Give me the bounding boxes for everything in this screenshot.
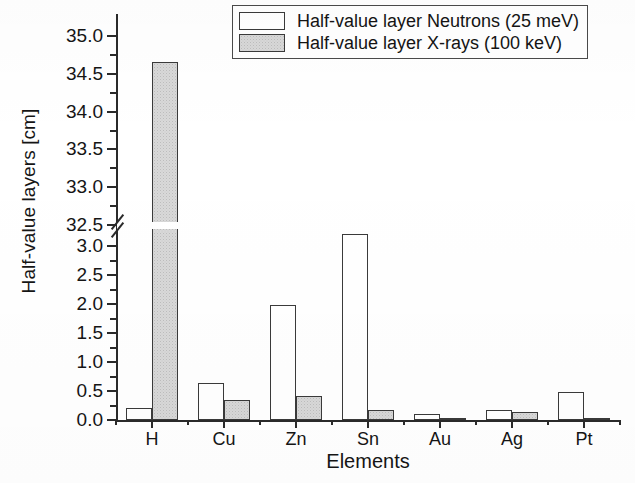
x-tick-minor: [547, 420, 549, 425]
y-tick-label: 34.0: [66, 102, 103, 121]
y-tick-label: 2.0: [77, 294, 103, 313]
x-tick-label: Zn: [285, 430, 306, 448]
y-tick-label: 32.5: [66, 215, 103, 234]
legend-entry-neutrons: Half-value layer Neutrons (25 meV): [239, 10, 579, 32]
x-tick-label: Cu: [212, 430, 235, 448]
bar: [414, 414, 440, 420]
bar: [198, 383, 224, 420]
y-tick: [110, 318, 116, 320]
plot-area: 0.00.51.01.52.02.53.032.533.033.534.034.…: [116, 14, 620, 422]
y-tick: [107, 361, 116, 363]
x-tick-minor: [115, 420, 117, 425]
x-tick: [583, 420, 585, 428]
bar-lower-segment: [152, 232, 178, 420]
y-tick-label: 33.0: [66, 177, 103, 196]
figure: Half-value layers [cm] 0.00.51.01.52.02.…: [0, 0, 635, 483]
y-tick-label: 35.0: [66, 26, 103, 45]
y-tick: [107, 332, 116, 334]
y-tick-label: 1.5: [77, 323, 103, 342]
bar: [486, 410, 512, 420]
y-tick-label: 1.0: [77, 352, 103, 371]
legend-swatch-neutrons: [239, 12, 285, 30]
x-tick-label: H: [146, 430, 159, 448]
bar: [342, 234, 368, 420]
y-tick: [107, 111, 116, 113]
y-tick: [110, 405, 116, 407]
bar: [440, 418, 466, 420]
x-tick-label: Ag: [501, 430, 523, 448]
bar: [126, 408, 152, 420]
y-tick: [107, 303, 116, 305]
y-tick-label: 0.0: [77, 410, 103, 429]
y-tick: [110, 289, 116, 291]
legend-entry-xrays: Half-value layer X-rays (100 keV): [239, 32, 579, 54]
axis-break-mask: [117, 222, 623, 229]
y-tick: [107, 274, 116, 276]
x-tick-minor: [187, 420, 189, 425]
bar: [224, 400, 250, 420]
legend-swatch-xrays: [239, 34, 285, 52]
x-tick: [367, 420, 369, 428]
x-tick: [295, 420, 297, 428]
y-tick: [110, 205, 116, 207]
x-tick-minor: [259, 420, 261, 425]
legend: Half-value layer Neutrons (25 meV) Half-…: [232, 5, 588, 59]
y-tick: [107, 186, 116, 188]
x-tick-minor: [331, 420, 333, 425]
bar: [558, 392, 584, 420]
bar: [270, 305, 296, 420]
x-tick-minor: [475, 420, 477, 425]
bar-upper-segment: [152, 62, 178, 232]
y-tick: [107, 148, 116, 150]
y-tick: [110, 347, 116, 349]
y-tick: [107, 35, 116, 37]
bar: [368, 410, 394, 420]
y-tick-label: 34.5: [66, 64, 103, 83]
legend-label-neutrons: Half-value layer Neutrons (25 meV): [297, 12, 579, 30]
y-axis-title: Half-value layers [cm]: [18, 76, 40, 326]
x-tick: [511, 420, 513, 428]
x-tick-minor: [403, 420, 405, 425]
axis-break-icon: [107, 216, 131, 236]
y-tick-label: 33.5: [66, 139, 103, 158]
y-tick: [107, 390, 116, 392]
bar: [296, 396, 322, 420]
x-tick: [223, 420, 225, 428]
y-tick: [110, 54, 116, 56]
y-tick: [110, 130, 116, 132]
bar: [584, 418, 610, 420]
x-tick: [439, 420, 441, 428]
x-tick-label: Sn: [357, 430, 379, 448]
y-tick-label: 2.5: [77, 265, 103, 284]
y-tick-label: 3.0: [77, 236, 103, 255]
y-tick: [110, 260, 116, 262]
y-tick: [110, 167, 116, 169]
x-tick-label: Au: [429, 430, 451, 448]
x-tick-minor: [619, 420, 621, 425]
y-tick: [110, 92, 116, 94]
x-tick-label: Pt: [575, 430, 592, 448]
x-axis-title: Elements: [116, 450, 620, 473]
x-tick: [151, 420, 153, 428]
y-tick-label: 0.5: [77, 381, 103, 400]
legend-label-xrays: Half-value layer X-rays (100 keV): [297, 34, 562, 52]
y-tick: [107, 73, 116, 75]
y-tick: [107, 245, 116, 247]
y-tick: [110, 376, 116, 378]
bar: [512, 412, 538, 420]
